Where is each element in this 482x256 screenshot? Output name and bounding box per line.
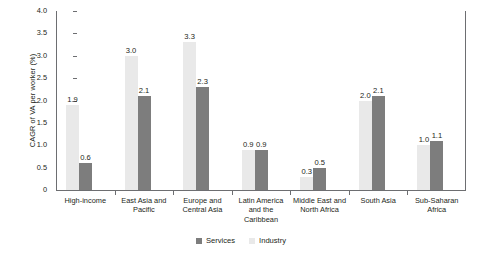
bar-industry: 2.0 bbox=[359, 101, 372, 191]
legend-swatch-services bbox=[196, 238, 202, 244]
bar-value-label: 2.1 bbox=[373, 86, 384, 95]
bar-industry: 1.0 bbox=[417, 145, 430, 190]
x-axis-tick-mark bbox=[290, 191, 291, 195]
legend-swatch-industry bbox=[249, 238, 255, 244]
bar-value-label: 0.9 bbox=[243, 140, 254, 149]
bar-value-label: 0.3 bbox=[302, 167, 313, 176]
bar-industry: 0.9 bbox=[242, 150, 255, 190]
bar-group: 3.02.1 bbox=[115, 11, 174, 190]
y-axis-tick-label: 0 bbox=[21, 186, 47, 194]
bar-group: 2.02.1 bbox=[349, 11, 408, 190]
bar-industry: 3.0 bbox=[125, 56, 138, 190]
x-axis-category-label: East Asia and Pacific bbox=[115, 196, 174, 215]
bar-value-label: 1.1 bbox=[432, 131, 443, 140]
bar-value-label: 2.0 bbox=[360, 91, 371, 100]
x-axis-tick-mark bbox=[407, 191, 408, 195]
bar-group: 1.01.1 bbox=[407, 11, 466, 190]
bar-services: 0.5 bbox=[313, 168, 326, 190]
bar-services: 0.9 bbox=[255, 150, 268, 190]
bar-group: 0.90.9 bbox=[232, 11, 291, 190]
bar-value-label: 1.9 bbox=[67, 95, 78, 104]
legend-item-industry: Industry bbox=[249, 236, 286, 245]
legend-label: Industry bbox=[259, 236, 286, 245]
bar-value-label: 0.9 bbox=[256, 140, 267, 149]
plot-area: 1.90.63.02.13.32.30.90.90.30.52.02.11.01… bbox=[56, 11, 466, 191]
y-axis-tick-label: 0.5 bbox=[21, 164, 47, 172]
x-axis-tick-mark bbox=[173, 191, 174, 195]
y-axis-tick-label: 3.5 bbox=[21, 29, 47, 37]
legend-item-services: Services bbox=[196, 236, 235, 245]
bar-value-label: 2.3 bbox=[197, 77, 208, 86]
bars-layer: 1.90.63.02.13.32.30.90.90.30.52.02.11.01… bbox=[56, 11, 466, 191]
y-axis-tick-label: 2.5 bbox=[21, 74, 47, 82]
bar-industry: 1.9 bbox=[66, 105, 79, 190]
bar-chart: CAGR of VA per worker (%) 4.03.53.02.52.… bbox=[0, 0, 482, 256]
bar-value-label: 3.0 bbox=[126, 46, 137, 55]
bar-services: 2.1 bbox=[138, 96, 151, 190]
x-axis-category-label: South Asia bbox=[349, 196, 408, 205]
x-axis-tick-mark bbox=[349, 191, 350, 195]
x-axis-tick-marks bbox=[56, 191, 466, 195]
legend-label: Services bbox=[206, 236, 235, 245]
bar-group: 3.32.3 bbox=[173, 11, 232, 190]
y-axis-tick-label: 1.0 bbox=[21, 141, 47, 149]
y-axis-tick-label: 2.0 bbox=[21, 97, 47, 105]
bar-services: 1.1 bbox=[430, 141, 443, 190]
y-axis-tick-labels: 4.03.53.02.52.01.51.00.50 bbox=[21, 0, 47, 256]
bar-value-label: 2.1 bbox=[139, 86, 150, 95]
x-axis-tick-mark bbox=[115, 191, 116, 195]
x-axis-category-label: High-income bbox=[56, 196, 115, 205]
y-axis-tick-label: 3.0 bbox=[21, 52, 47, 60]
x-axis-category-label: Sub-Saharan Africa bbox=[407, 196, 466, 215]
bar-value-label: 1.0 bbox=[419, 135, 430, 144]
bar-services: 2.1 bbox=[372, 96, 385, 190]
bar-value-label: 0.6 bbox=[80, 153, 91, 162]
y-axis-tick-label: 4.0 bbox=[21, 7, 47, 15]
bar-services: 0.6 bbox=[79, 163, 92, 190]
x-axis-category-label: Latin America and the Caribbean bbox=[232, 196, 291, 224]
bar-group: 1.90.6 bbox=[56, 11, 115, 190]
bar-group: 0.30.5 bbox=[290, 11, 349, 190]
bar-value-label: 0.5 bbox=[315, 158, 326, 167]
x-axis-category-label: Europe and Central Asia bbox=[173, 196, 232, 215]
chart-legend: ServicesIndustry bbox=[0, 236, 482, 245]
x-axis-category-label: Middle East and North Africa bbox=[290, 196, 349, 215]
bar-value-label: 3.3 bbox=[184, 32, 195, 41]
x-axis-category-labels: High-incomeEast Asia and PacificEurope a… bbox=[56, 196, 466, 240]
bar-industry: 3.3 bbox=[183, 42, 196, 190]
bar-industry: 0.3 bbox=[300, 177, 313, 190]
bar-services: 2.3 bbox=[196, 87, 209, 190]
x-axis-tick-mark bbox=[232, 191, 233, 195]
y-axis-tick-label: 1.5 bbox=[21, 119, 47, 127]
